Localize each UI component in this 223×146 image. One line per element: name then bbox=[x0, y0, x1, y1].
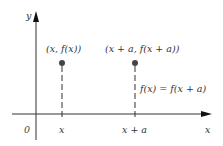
point-x-plus-a bbox=[132, 60, 138, 66]
tick-label-x: x bbox=[59, 124, 65, 135]
point-x-fx bbox=[59, 60, 65, 66]
y-axis-label: y bbox=[25, 10, 32, 21]
equation-label: f(x) = f(x + a) bbox=[139, 83, 207, 94]
x-axis-arrow-icon bbox=[201, 111, 212, 117]
x-axis-label: x bbox=[205, 124, 211, 135]
y-axis-arrow-icon bbox=[33, 11, 39, 22]
origin-label: 0 bbox=[24, 124, 30, 135]
periodic-function-diagram: y x 0 x x + a (x, f(x)) (x + a, f(x + a)… bbox=[0, 0, 223, 146]
tick-label-x-plus-a: x + a bbox=[122, 124, 147, 135]
point-label-x-plus-a: (x + a, f(x + a)) bbox=[105, 43, 180, 54]
point-label-x-fx: (x, f(x)) bbox=[46, 43, 81, 54]
